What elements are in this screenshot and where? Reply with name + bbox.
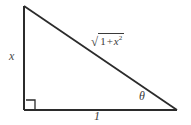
radical-expression: √1+x2	[91, 33, 124, 48]
right-angle-marker-icon	[26, 100, 35, 109]
radicand-exponent: 2	[119, 34, 123, 42]
hypotenuse-line	[24, 6, 177, 110]
square-root-icon: √	[91, 35, 98, 48]
horizontal-leg-label: 1	[94, 110, 100, 122]
radicand-first-term: 1	[100, 35, 106, 47]
radicand-operator: +	[106, 35, 114, 47]
hypotenuse-label: √1+x2	[91, 33, 124, 48]
radicand: 1+x2	[98, 33, 124, 47]
angle-theta-label: θ	[139, 90, 145, 102]
right-triangle-figure: x 1 θ √1+x2	[0, 0, 191, 125]
vertical-leg-label: x	[9, 50, 14, 62]
triangle-svg	[0, 0, 191, 125]
